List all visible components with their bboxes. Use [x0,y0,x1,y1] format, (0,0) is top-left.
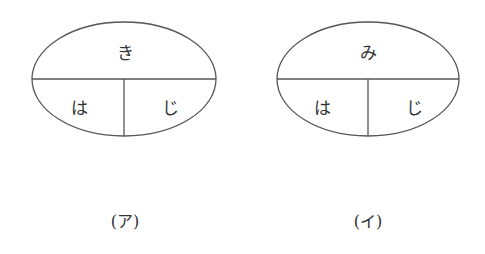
bottom-left-kana-i: は [314,98,331,118]
top-kana-i: み [360,43,377,63]
bottom-right-kana-i: じ [406,98,423,118]
caption-a: (ア) [111,212,139,232]
diagram-canvas [0,0,485,254]
caption-i: (イ) [354,212,382,232]
bottom-left-kana-a: は [71,98,88,118]
diagram-i [277,22,459,136]
diagram-a [32,22,216,136]
bottom-right-kana-a: じ [162,98,179,118]
top-kana-a: き [117,43,134,63]
